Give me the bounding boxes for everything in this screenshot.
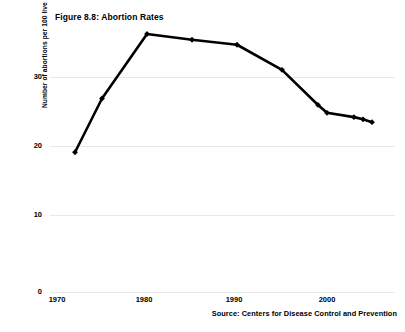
series-polyline bbox=[75, 34, 372, 152]
figure-abortion-rates: Figure 8.8: Abortion Rates Number of abo… bbox=[0, 0, 405, 332]
data-point-1985 bbox=[189, 37, 195, 43]
x-tick-label-1980: 1980 bbox=[124, 296, 164, 304]
data-series-line bbox=[50, 20, 395, 292]
y-axis-title: Number of abortions per 100 live births bbox=[41, 0, 48, 108]
data-point-2004 bbox=[360, 116, 366, 122]
x-tick-label-1990: 1990 bbox=[214, 296, 254, 304]
series-markers bbox=[72, 31, 375, 155]
x-tick-label-2000: 2000 bbox=[307, 296, 347, 304]
y-tick-label-30: 30 bbox=[12, 73, 42, 81]
plot-area: Number of abortions per 100 live births … bbox=[50, 20, 395, 292]
y-tick-label-20: 20 bbox=[12, 142, 42, 150]
data-point-2005 bbox=[369, 119, 375, 125]
x-tick-label-1970: 1970 bbox=[37, 296, 77, 304]
source-note: Source: Centers for Disease Control and … bbox=[212, 309, 397, 318]
y-tick-label-0: 0 bbox=[12, 288, 42, 296]
y-tick-label-10: 10 bbox=[12, 211, 42, 219]
data-point-2003 bbox=[351, 114, 357, 120]
gridline-0 bbox=[50, 292, 395, 293]
